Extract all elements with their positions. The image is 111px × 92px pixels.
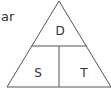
top-label: D (55, 24, 64, 38)
bottom-right-label: T (79, 66, 88, 80)
formula-triangle: D S T (0, 0, 111, 92)
bottom-left-label: S (34, 66, 42, 80)
